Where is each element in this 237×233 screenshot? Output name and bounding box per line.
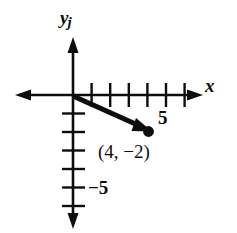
x-axis-left-arrowhead	[15, 90, 31, 101]
vector-to-point	[73, 96, 154, 137]
y-axis-bottom-arrowhead	[68, 213, 79, 229]
point-marker-dot	[143, 126, 154, 137]
x-axis-label: x	[205, 76, 215, 95]
axes-and-vector-graphic	[0, 0, 237, 233]
y-axis-label-subscript: j	[67, 14, 71, 30]
y-axis-top-arrowhead	[68, 37, 79, 53]
point-coordinate-label: (4, −2)	[98, 142, 150, 161]
y-tick-label-neg5: −5	[88, 178, 108, 197]
coordinate-plane-figure: yj x 5 −5 (4, −2)	[0, 0, 237, 233]
x-tick-label-5: 5	[158, 108, 168, 127]
y-axis-label: yj	[60, 8, 72, 30]
x-axis-right-arrowhead	[187, 90, 203, 101]
